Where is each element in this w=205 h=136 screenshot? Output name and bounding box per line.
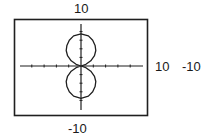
xmax-label: 10 [155,60,169,73]
calculator-graph-screen [0,0,205,136]
ymax-label: 10 [74,2,88,15]
axes [20,24,143,110]
xmin-label: -10 [182,60,201,73]
ymin-label: -10 [68,122,87,135]
